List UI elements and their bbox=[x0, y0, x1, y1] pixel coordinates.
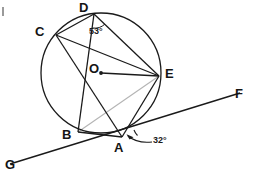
chord-CE bbox=[56, 35, 159, 76]
chord-AE bbox=[122, 76, 159, 137]
point-label-E: E bbox=[165, 67, 174, 80]
point-label-D: D bbox=[79, 1, 88, 14]
geometry-figure: D C O E B A F G 53° 32° bbox=[0, 0, 259, 189]
point-label-A: A bbox=[114, 141, 123, 154]
chord-BE bbox=[78, 76, 159, 132]
point-label-C: C bbox=[35, 25, 44, 38]
angle-arc-A bbox=[134, 130, 138, 136]
point-label-B: B bbox=[62, 128, 71, 141]
point-label-G: G bbox=[5, 158, 15, 171]
line-GF bbox=[10, 93, 240, 164]
chord-DE bbox=[94, 14, 159, 76]
center-point-dot bbox=[99, 71, 103, 75]
angle-label-32: 32° bbox=[153, 136, 167, 145]
radius-OE bbox=[101, 73, 159, 76]
angle-label-53: 53° bbox=[89, 27, 103, 36]
point-label-O: O bbox=[89, 62, 99, 75]
point-label-F: F bbox=[235, 87, 243, 100]
